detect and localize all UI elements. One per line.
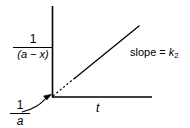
figure-container: 1 (a − x) 1 a t slope = k2: [0, 0, 190, 128]
y-axis-label-denominator: (a − x): [13, 49, 53, 61]
intercept-label-numerator: 1: [10, 99, 30, 112]
x-axis-label: t: [96, 101, 99, 115]
intercept-label-denominator: a: [10, 115, 30, 128]
intercept-label: 1 a: [10, 99, 30, 127]
slope-annotation-subscript: 2: [174, 51, 178, 60]
y-axis-label: 1 (a − x): [13, 33, 53, 60]
y-axis-label-numerator: 1: [13, 33, 53, 46]
slope-annotation-prefix: slope =: [130, 46, 169, 58]
slope-annotation: slope = k2: [130, 46, 179, 58]
data-line-dashed-extension: [53, 77, 76, 96]
